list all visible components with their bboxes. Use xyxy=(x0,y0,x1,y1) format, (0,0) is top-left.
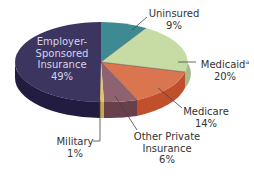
label-medicaid-pct: 20% xyxy=(198,71,252,83)
label-employer-line1: Employer- xyxy=(28,36,96,48)
label-military: Military 1% xyxy=(54,136,96,159)
label-uninsured-pct: 9% xyxy=(148,20,200,32)
label-military-name: Military xyxy=(54,136,96,148)
label-military-pct: 1% xyxy=(54,148,96,160)
label-employer: Employer- Sponsored Insurance 49% xyxy=(28,36,96,82)
slice-side-military xyxy=(100,102,104,118)
label-employer-line2: Sponsored xyxy=(28,48,96,60)
pie-chart xyxy=(0,0,254,176)
label-uninsured-name: Uninsured xyxy=(148,8,200,20)
label-other-line2: Insurance xyxy=(132,143,202,155)
label-employer-line3: Insurance xyxy=(28,59,96,71)
label-medicare-name: Medicare xyxy=(180,106,232,118)
label-other: Other Private Insurance 6% xyxy=(132,131,202,166)
label-other-pct: 6% xyxy=(132,154,202,166)
footnote-marker: a xyxy=(245,58,249,65)
label-other-line1: Other Private xyxy=(132,131,202,143)
label-uninsured: Uninsured 9% xyxy=(148,8,200,31)
label-medicare: Medicare 14% xyxy=(180,106,232,129)
label-medicaid-name: Medicaid xyxy=(201,59,246,70)
label-employer-pct: 49% xyxy=(28,71,96,83)
label-medicaid-name-row: Medicaida xyxy=(198,56,252,71)
label-medicaid: Medicaida 20% xyxy=(198,56,252,82)
label-medicare-pct: 14% xyxy=(180,118,232,130)
slice-side-other xyxy=(104,100,137,118)
